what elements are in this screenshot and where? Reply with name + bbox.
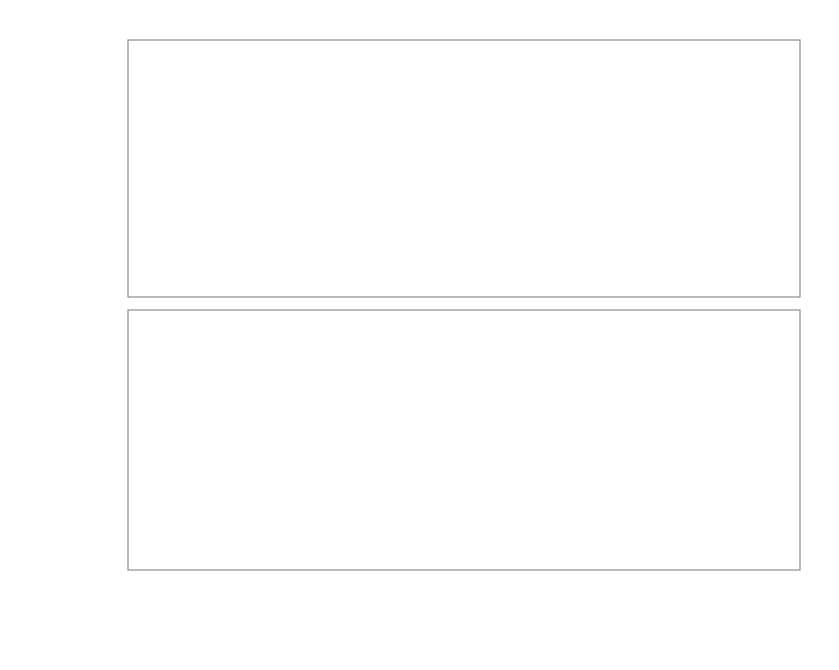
chart-svg <box>0 0 839 670</box>
bottom-panel <box>128 310 800 570</box>
top-panel <box>128 40 800 297</box>
bottom-panel-frame <box>128 310 800 570</box>
top-panel-frame <box>128 40 800 297</box>
figure-container <box>0 0 839 670</box>
